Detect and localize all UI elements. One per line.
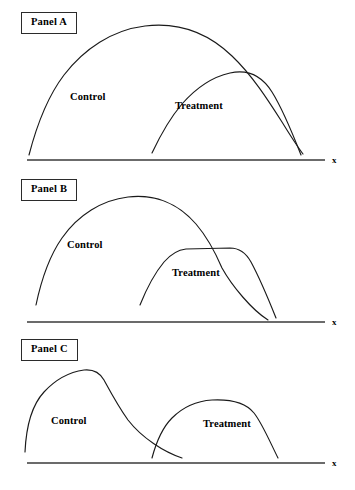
panel-b-axis-label: x [332, 318, 337, 327]
panel-a-control-label: Control [70, 92, 106, 103]
panel-c-control-label: Control [51, 416, 87, 427]
panel-a-treatment-curve [152, 72, 301, 155]
panel-c-control-curve [25, 370, 182, 458]
panel-b-tag: Panel B [21, 179, 77, 201]
panel-b-control-label: Control [67, 240, 103, 251]
panel-c-tag: Panel C [21, 339, 78, 361]
figure-three-panel-curves: Panel A Control Treatment x Panel B Cont… [0, 0, 355, 490]
panel-a-axis-label: x [332, 156, 337, 165]
panel-c: Panel C Control Treatment x [0, 330, 355, 490]
panel-c-axis-label: x [332, 459, 337, 468]
panel-b: Panel B Control Treatment x [0, 170, 355, 330]
panel-c-treatment-label: Treatment [203, 419, 251, 430]
panel-a-tag: Panel A [21, 12, 77, 34]
panel-b-treatment-label: Treatment [172, 268, 220, 279]
panel-a-treatment-label: Treatment [175, 101, 223, 112]
panel-b-treatment-curve [140, 248, 276, 318]
panel-b-control-curve [36, 196, 268, 320]
panel-a: Panel A Control Treatment x [0, 0, 355, 170]
